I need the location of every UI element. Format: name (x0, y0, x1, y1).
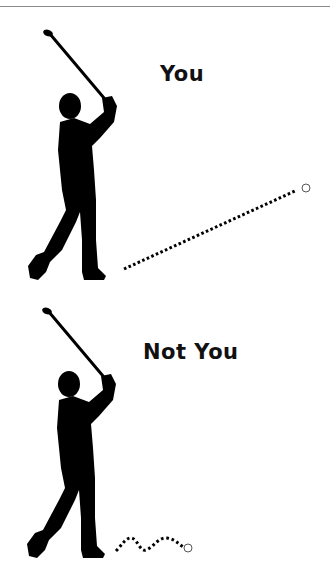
ball-path-long (124, 191, 295, 269)
golfer-silhouette-not-you (27, 306, 116, 558)
comic-scene (0, 0, 330, 582)
golfer-silhouette-you (28, 28, 117, 280)
caption-you: You (160, 62, 204, 86)
golf-ball-icon (184, 544, 192, 552)
ball-path-wobbly (116, 538, 183, 551)
golf-ball-icon (302, 184, 310, 192)
caption-not-you: Not You (143, 340, 239, 364)
